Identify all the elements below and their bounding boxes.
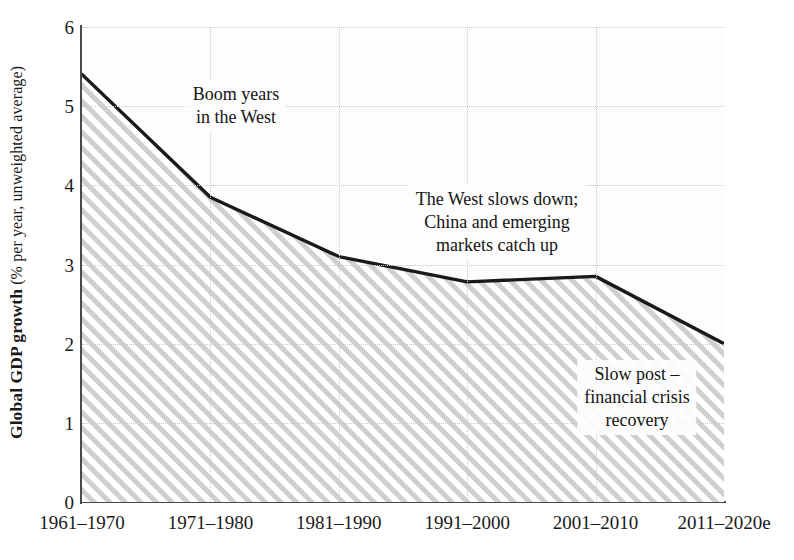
y-axis-title-light: (% per year, unweighted average): [9, 66, 26, 289]
y-tick-label: 1: [44, 413, 74, 432]
gridline-vertical: [467, 27, 468, 502]
y-tick-label: 0: [44, 493, 74, 512]
gridline-horizontal: [82, 265, 724, 266]
x-axis-tick-labels: 1961–19701971–19801981–19901991–20002001…: [0, 512, 794, 552]
y-axis-title-bold: Global GDP growth: [7, 289, 27, 439]
annotation-slow-recovery: Slow post –financial crisisrecovery: [577, 360, 696, 435]
area-fill: [82, 75, 724, 503]
y-tick-label: 5: [44, 97, 74, 116]
annotation-line: in the West: [193, 106, 279, 129]
y-tick-label: 3: [44, 255, 74, 274]
x-tick-label: 1981–1990: [296, 512, 382, 534]
gridline-vertical: [339, 27, 340, 502]
chart-figure: Global GDP growth (% per year, unweighte…: [0, 0, 794, 560]
gridline-horizontal: [82, 27, 724, 28]
annotation-line: The West slows down;: [416, 188, 579, 211]
annotation-line: recovery: [584, 409, 689, 432]
y-axis-tick-labels: 0123456: [38, 0, 74, 560]
y-tick-label: 2: [44, 334, 74, 353]
annotation-west-slows: The West slows down;China and emergingma…: [409, 185, 586, 260]
x-tick-label: 1961–1970: [39, 512, 125, 534]
gridline-horizontal: [82, 344, 724, 345]
annotation-line: financial crisis: [584, 386, 689, 409]
annotation-line: China and emerging: [416, 211, 579, 234]
annotation-line: Slow post –: [584, 363, 689, 386]
gridline-horizontal: [82, 106, 724, 107]
annotation-line: Boom years: [193, 83, 279, 106]
x-tick-label: 1991–2000: [424, 512, 510, 534]
y-axis-title: Global GDP growth (% per year, unweighte…: [0, 0, 34, 505]
x-tick-label: 2001–2010: [553, 512, 639, 534]
x-tick-label: 2011–2020e: [677, 512, 770, 534]
gridline-horizontal: [82, 185, 724, 186]
annotation-boom-years: Boom yearsin the West: [186, 80, 286, 132]
y-tick-label: 4: [44, 176, 74, 195]
x-tick-label: 1971–1980: [168, 512, 254, 534]
y-tick-label: 6: [44, 18, 74, 37]
annotation-line: markets catch up: [416, 234, 579, 257]
